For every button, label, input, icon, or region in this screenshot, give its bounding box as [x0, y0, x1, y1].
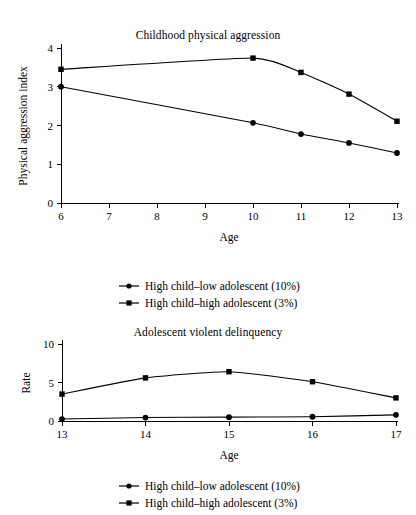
chart-panel-childhood-aggression: Childhood physical aggression 0123467891… [0, 0, 416, 262]
data-point-marker [298, 131, 304, 137]
y-axis-title: Rate [20, 372, 32, 393]
x-tick-label: 12 [344, 210, 355, 222]
y-tick-label: 10 [43, 338, 55, 350]
y-tick-label: 3 [48, 81, 54, 93]
data-point-marker [143, 375, 148, 380]
y-tick-label: 2 [48, 120, 54, 132]
y-tick-label: 0 [49, 415, 55, 427]
series-line-2 [61, 58, 397, 121]
series-line-2 [62, 372, 396, 398]
data-point-marker [346, 91, 351, 96]
data-point-marker [250, 120, 256, 126]
data-point-marker [394, 119, 399, 124]
x-tick-label: 10 [248, 210, 260, 222]
x-tick-label: 6 [58, 210, 64, 222]
data-point-marker [226, 369, 231, 374]
data-point-marker [394, 150, 400, 156]
x-axis-title: Age [219, 449, 238, 462]
legend-label: High child–low adolescent (10%) [145, 480, 300, 492]
x-tick-label: 15 [224, 428, 236, 440]
data-point-marker [310, 414, 316, 420]
x-axis-title: Age [219, 231, 238, 244]
legend-item-high-child-low-adolescent[interactable]: High child–low adolescent (10%) [0, 477, 416, 494]
data-point-marker [310, 379, 315, 384]
data-point-marker [346, 140, 352, 146]
x-tick-label: 11 [296, 210, 307, 222]
data-point-marker [226, 414, 232, 420]
plot-area-childhood-aggression: 01234678910111213AgePhysical aggression … [0, 0, 416, 262]
data-point-marker [393, 412, 399, 418]
y-tick-label: 4 [48, 42, 54, 54]
y-axis-title: Physical aggression index [17, 66, 30, 186]
x-tick-label: 14 [140, 428, 152, 440]
square-marker-icon [118, 497, 140, 509]
legend-item-high-child-high-adolescent[interactable]: High child–high adolescent (3%) [0, 494, 416, 511]
data-point-marker [58, 84, 64, 90]
data-point-marker [250, 55, 255, 60]
x-tick-label: 17 [391, 428, 403, 440]
data-point-marker [143, 415, 149, 421]
data-point-marker [59, 391, 64, 396]
x-tick-label: 16 [307, 428, 319, 440]
data-point-marker [298, 70, 303, 75]
x-tick-label: 13 [392, 210, 404, 222]
x-tick-label: 8 [154, 210, 160, 222]
data-point-marker [58, 67, 63, 72]
y-tick-label: 0 [48, 197, 54, 209]
legend-adolescent-delinquency: High child–low adolescent (10%) High chi… [0, 477, 416, 511]
x-tick-label: 13 [57, 428, 69, 440]
legend-label: High child–high adolescent (3%) [145, 497, 297, 509]
circle-marker-icon [118, 480, 140, 492]
x-tick-label: 7 [106, 210, 112, 222]
data-point-marker [59, 416, 65, 422]
data-point-marker [393, 395, 398, 400]
x-tick-label: 9 [202, 210, 208, 222]
y-tick-label: 1 [48, 158, 54, 170]
y-tick-label: 5 [49, 377, 55, 389]
